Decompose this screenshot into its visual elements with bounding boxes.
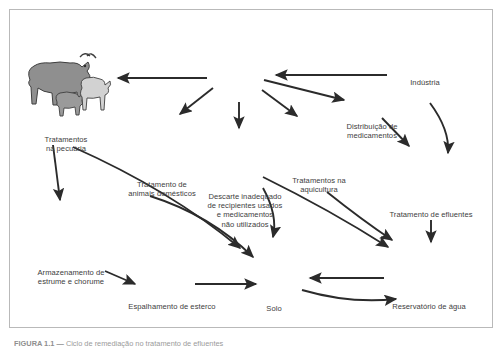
edge-industry-to-effluent — [430, 103, 448, 153]
label-industry: Indústria — [395, 78, 455, 87]
caption-text: Ciclo de remediação no tratamento de efl… — [66, 339, 223, 348]
label-reservoir: Reservatório de água — [376, 302, 482, 311]
edge-pills-to-aquaculture — [262, 90, 297, 116]
cow-goat-icon — [29, 54, 111, 116]
label-soil: Solo — [248, 304, 300, 313]
label-pets: Tratamento de animais domésticos — [115, 180, 209, 198]
label-effluent: Tratamento de efluentes — [375, 210, 487, 219]
figure-caption: FIGURA 1.1 — Ciclo de remediação no trat… — [14, 339, 492, 348]
label-cattle: Tratamentos na pecuária — [23, 135, 109, 153]
caption-label: FIGURA 1.1 — — [14, 339, 64, 348]
label-trash: Descarte inadequado de recipientes usado… — [196, 192, 294, 229]
label-tractor: Espalhamento de esterco — [120, 302, 224, 311]
edge-pills-to-pets — [180, 88, 213, 114]
label-aquaculture: Tratamentos na aquicultura — [274, 176, 364, 194]
edge-layer — [53, 75, 448, 300]
label-truck: Distribuição de medicamentos — [329, 122, 415, 140]
figure-frame: Tratamentos na pecuária Tratamento de an… — [9, 9, 493, 328]
edge-pills-to-truck — [264, 80, 344, 100]
edge-soil-to-reservoir — [302, 290, 396, 300]
label-manure: Armazenamento de estrume e chorume — [21, 268, 121, 286]
figure-root: Tratamentos na pecuária Tratamento de an… — [0, 0, 503, 349]
